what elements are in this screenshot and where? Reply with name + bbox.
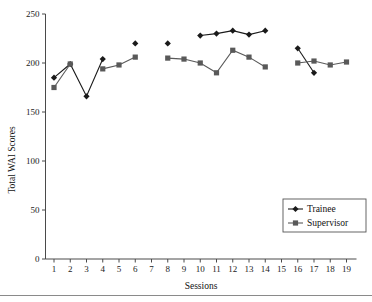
y-tick-label: 50 (31, 205, 41, 215)
x-tick-label: 14 (261, 264, 271, 274)
data-point-trainee-s16 (295, 45, 301, 51)
x-tick-label: 4 (101, 264, 106, 274)
data-point-supervisor-s17 (311, 58, 316, 63)
x-tick-label: 12 (228, 264, 237, 274)
data-point-supervisor-s2 (68, 61, 73, 66)
x-tick-label: 19 (342, 264, 352, 274)
data-point-supervisor-s12 (230, 48, 235, 53)
bottom-divider (0, 295, 372, 296)
x-tick-label: 1 (52, 264, 57, 274)
y-tick-label: 250 (26, 9, 40, 19)
data-point-trainee-s4 (100, 56, 106, 62)
data-point-trainee-s11 (213, 31, 219, 37)
x-tick-label: 2 (68, 264, 73, 274)
x-tick-label: 10 (196, 264, 206, 274)
data-point-supervisor-s8 (165, 56, 170, 61)
x-tick-label: 9 (182, 264, 187, 274)
legend-label-trainee: Trainee (307, 204, 336, 214)
x-axis: 12345678910111213141516171819 (46, 259, 357, 274)
x-tick-label: 16 (293, 264, 303, 274)
data-point-trainee-s12 (230, 28, 236, 34)
y-tick-label: 200 (26, 58, 40, 68)
data-point-supervisor-s13 (246, 55, 251, 60)
data-point-supervisor-s10 (198, 60, 203, 65)
y-axis-title: Total WAI Scores (7, 126, 17, 194)
data-point-supervisor-s14 (263, 64, 268, 69)
data-point-trainee-s8 (165, 40, 171, 46)
x-tick-label: 6 (133, 264, 138, 274)
x-tick-label: 15 (277, 264, 287, 274)
data-point-supervisor-s16 (295, 60, 300, 65)
x-axis-title: Sessions (185, 281, 218, 291)
y-tick-label: 100 (26, 156, 40, 166)
data-point-supervisor-s18 (328, 62, 333, 67)
series-line-supervisor (298, 61, 347, 65)
chart-container: 050100150200250 123456789101112131415161… (0, 0, 372, 302)
data-point-trainee-s10 (197, 32, 203, 38)
data-point-trainee-s14 (262, 28, 268, 34)
data-series-group (51, 28, 349, 100)
chart-legend: TraineeSupervisor (283, 199, 366, 232)
x-tick-label: 11 (212, 264, 221, 274)
x-tick-label: 8 (166, 264, 171, 274)
y-tick-label: 0 (35, 254, 40, 264)
line-chart: 050100150200250 123456789101112131415161… (0, 0, 372, 302)
legend-marker-supervisor (293, 220, 298, 225)
y-axis: 050100150200250 (26, 9, 46, 264)
x-tick-label: 3 (84, 264, 89, 274)
data-point-supervisor-s5 (116, 62, 121, 67)
x-tick-label: 13 (245, 264, 255, 274)
y-tick-label: 150 (26, 107, 40, 117)
x-tick-label: 7 (149, 264, 154, 274)
data-point-trainee-s3 (83, 93, 89, 99)
data-point-trainee-s6 (132, 40, 138, 46)
data-point-supervisor-s19 (344, 59, 349, 64)
x-tick-label: 17 (310, 264, 320, 274)
data-point-supervisor-s11 (214, 70, 219, 75)
x-tick-label: 5 (117, 264, 122, 274)
data-point-supervisor-s4 (100, 66, 105, 71)
data-point-supervisor-s1 (51, 85, 56, 90)
data-point-supervisor-s6 (133, 55, 138, 60)
data-point-supervisor-s9 (181, 56, 186, 61)
data-point-trainee-s13 (246, 31, 252, 37)
legend-label-supervisor: Supervisor (307, 218, 349, 228)
data-point-trainee-s17 (311, 70, 317, 76)
x-tick-label: 18 (326, 264, 336, 274)
